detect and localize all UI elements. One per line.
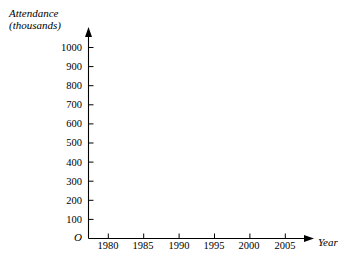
y-tick-label: 700 [42, 99, 82, 110]
x-tick-label: 2005 [265, 240, 305, 251]
x-tick-label: 1985 [123, 240, 163, 251]
x-tick-label: 1995 [194, 240, 234, 251]
y-axis-ticks [89, 48, 94, 220]
y-tick-label: 500 [42, 137, 82, 148]
y-tick-label: 900 [42, 61, 82, 72]
x-tick-label: 1980 [88, 240, 128, 251]
y-tick-label: 100 [42, 214, 82, 225]
y-tick-label: 600 [42, 118, 82, 129]
x-axis-ticks [108, 234, 285, 239]
x-tick-label: 1990 [159, 240, 199, 251]
y-tick-label: 400 [42, 157, 82, 168]
x-tick-label: 2000 [229, 240, 269, 251]
y-tick-label: 800 [42, 80, 82, 91]
chart-figure: Attendance (thousands) O Year [0, 0, 356, 257]
y-axis-arrowhead [85, 27, 92, 37]
y-tick-label: 300 [42, 176, 82, 187]
y-tick-label: 1000 [42, 42, 82, 53]
y-tick-label: 200 [42, 195, 82, 206]
x-axis-arrowhead [304, 235, 314, 242]
